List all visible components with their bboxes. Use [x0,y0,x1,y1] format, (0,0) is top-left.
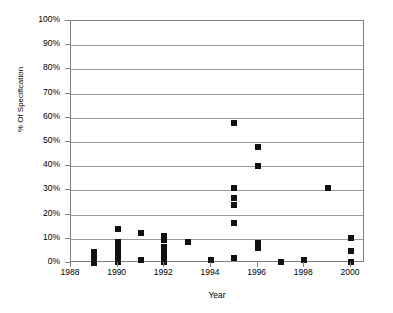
data-point [185,239,191,245]
data-point [161,237,167,243]
data-point [255,144,261,150]
data-point [91,260,97,266]
x-tick-label: 2000 [328,268,372,277]
gridline [71,118,363,119]
y-axis-title: % Of Specification [16,30,25,170]
gridline [71,142,363,143]
data-point [231,220,237,226]
data-point [115,226,121,232]
gridline [71,69,363,70]
gridline [71,190,363,191]
x-tick-label: 1990 [95,268,139,277]
y-tick-label: 100% [14,15,60,24]
data-point [231,120,237,126]
data-point [325,185,331,191]
chart-root: % Of Specification 100%90%80%70%60%50%40… [0,0,393,313]
data-point [348,248,354,254]
y-tick-label: 70% [14,88,60,97]
data-point [208,257,214,263]
data-point [278,259,284,265]
data-point [231,255,237,261]
data-point [348,259,354,265]
y-tick-label: 50% [14,136,60,145]
x-tick-label: 1998 [281,268,325,277]
data-point [348,235,354,241]
data-point [255,245,261,251]
y-tick-label: 30% [14,184,60,193]
y-tick-label: 20% [14,209,60,218]
x-tick-label: 1994 [188,268,232,277]
gridline [71,45,363,46]
y-tick-label: 90% [14,39,60,48]
y-tick-label: 10% [14,233,60,242]
x-axis-title: Year [70,290,364,300]
y-tick-label: 0% [14,257,60,266]
gridline [71,166,363,167]
y-tick-label: 40% [14,160,60,169]
plot-area [70,20,364,262]
x-tick-label: 1992 [141,268,185,277]
y-tick-label: 60% [14,112,60,121]
data-point [138,230,144,236]
x-tick-label: 1988 [48,268,92,277]
data-point [255,163,261,169]
data-point [161,259,167,265]
data-point [115,259,121,265]
data-point [231,185,237,191]
data-point [138,257,144,263]
gridline [71,215,363,216]
data-point [231,202,237,208]
x-tick-label: 1996 [235,268,279,277]
y-tick-label: 80% [14,63,60,72]
data-point [301,257,307,263]
gridline [71,94,363,95]
data-point [231,195,237,201]
